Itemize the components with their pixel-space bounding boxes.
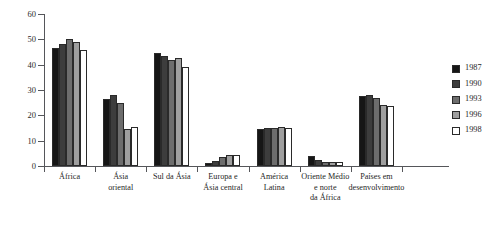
bar — [359, 96, 366, 166]
bar — [336, 162, 343, 166]
y-tick-label: 10 — [28, 137, 37, 146]
bar-group — [249, 14, 300, 166]
y-tick-label: 40 — [28, 61, 37, 70]
bar — [226, 155, 233, 166]
bar — [52, 48, 59, 166]
legend-label: 1990 — [465, 80, 482, 88]
legend-label: 1998 — [465, 126, 482, 134]
bar — [387, 106, 394, 166]
legend-item-1998[interactable]: 1998 — [452, 126, 482, 135]
y-tick-label: 20 — [28, 111, 37, 120]
legend-item-1990[interactable]: 1990 — [452, 80, 482, 89]
bar — [205, 163, 212, 166]
bar-group — [146, 14, 197, 166]
bar — [168, 60, 175, 166]
legend-swatch-icon — [452, 65, 460, 73]
bar — [161, 56, 168, 166]
bar — [366, 95, 373, 166]
bar — [103, 99, 110, 166]
bar — [66, 39, 73, 166]
bar — [315, 160, 322, 166]
legend-swatch-icon — [452, 127, 460, 135]
bar — [278, 127, 285, 166]
bar-groups — [44, 14, 402, 166]
bar — [73, 42, 80, 166]
legend-swatch-icon — [452, 80, 460, 88]
bar-group — [300, 14, 351, 166]
bar — [175, 58, 182, 166]
y-tick-label: 0 — [32, 162, 36, 171]
bar — [308, 156, 315, 166]
legend-label: 1987 — [465, 64, 482, 72]
bar-group — [95, 14, 146, 166]
legend-item-1987[interactable]: 1987 — [452, 64, 482, 73]
legend-swatch-icon — [452, 111, 460, 119]
bar-group — [197, 14, 248, 166]
bar — [264, 128, 271, 166]
bar — [212, 161, 219, 166]
bar — [285, 128, 292, 166]
bar — [59, 44, 66, 166]
bar — [233, 155, 240, 166]
bar-group — [44, 14, 95, 166]
bar — [110, 95, 117, 166]
bar — [329, 162, 336, 166]
chart-legend: 19871990199319961998 — [452, 64, 482, 135]
bar-chart: 0102030405060 ÁfricaÁsia orientalSul da … — [0, 0, 495, 233]
bar — [373, 98, 380, 166]
bar-group — [351, 14, 402, 166]
bar — [131, 127, 138, 166]
x-axis-line — [44, 166, 449, 167]
legend-swatch-icon — [452, 96, 460, 104]
bar — [322, 162, 329, 166]
bar — [219, 157, 226, 166]
bar — [257, 129, 264, 166]
legend-label: 1996 — [465, 111, 482, 119]
category-labels: ÁfricaÁsia orientalSul da ÁsiaEuropa e Á… — [44, 172, 449, 230]
bar — [380, 105, 387, 166]
bar — [271, 128, 278, 166]
y-tick-label: 60 — [28, 10, 37, 19]
bar — [182, 67, 189, 166]
y-tick-label: 50 — [28, 35, 37, 44]
legend-item-1993[interactable]: 1993 — [452, 95, 482, 104]
bar — [154, 53, 161, 166]
bar — [117, 103, 124, 166]
plot-area: 0102030405060 — [44, 14, 402, 166]
bar — [80, 50, 87, 166]
bar — [124, 129, 131, 166]
legend-item-1996[interactable]: 1996 — [452, 111, 482, 120]
y-tick-label: 30 — [28, 86, 37, 95]
legend-label: 1993 — [465, 95, 482, 103]
category-label: Países em desenvolvimento — [334, 172, 419, 193]
